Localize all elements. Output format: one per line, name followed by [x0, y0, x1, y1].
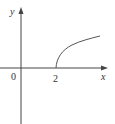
graph: y 0 2 x [0, 0, 115, 124]
x-axis-arrow-icon [101, 66, 108, 71]
x-axis-label: x [100, 71, 106, 82]
y-axis-label: y [9, 6, 15, 17]
origin-label: 0 [11, 71, 16, 82]
y-axis-arrow-icon [19, 7, 24, 14]
x-tick-2-label: 2 [53, 73, 58, 84]
sqrt-curve [56, 36, 100, 68]
